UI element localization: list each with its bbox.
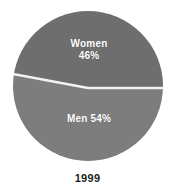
pie-label-men: Men 54% bbox=[36, 113, 142, 125]
pie-label-men-text: Men 54% bbox=[36, 113, 142, 125]
pie-label-women-name: Women bbox=[46, 38, 132, 50]
pie-label-women: Women 46% bbox=[46, 38, 132, 62]
chart-year-caption: 1999 bbox=[0, 172, 175, 184]
pie-label-women-value: 46% bbox=[46, 50, 132, 62]
pie-svg bbox=[0, 0, 175, 172]
pie-chart-graphic bbox=[0, 0, 175, 172]
pie-chart-figure: Women 46% Men 54% 1999 bbox=[0, 0, 175, 194]
